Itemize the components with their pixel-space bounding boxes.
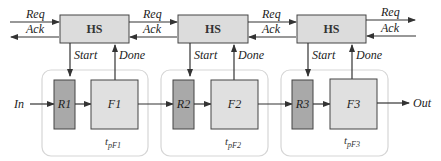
function-label: F2: [227, 97, 241, 111]
start-label: Start: [194, 48, 218, 62]
delay-label: tpF1: [105, 135, 121, 150]
ack-label: Ack: [380, 21, 400, 35]
register-label: R3: [295, 97, 309, 111]
function-label: F1: [107, 97, 121, 111]
start-label: Start: [312, 48, 336, 62]
register-label: R2: [176, 97, 190, 111]
ack-label: Ack: [261, 22, 281, 36]
output-label: Out: [413, 96, 432, 110]
input-label: In: [13, 97, 24, 111]
handshake-block-1: HS: [60, 15, 129, 43]
done-label: Done: [355, 48, 383, 62]
req-ack-2: Req Ack: [248, 7, 296, 37]
req-label: Req: [142, 7, 162, 21]
req-label: Req: [380, 5, 400, 19]
pipeline-diagram: HS HS HS Req Ack Req Ack Req Ack Req Ack…: [0, 0, 441, 161]
control-1: Start Done: [70, 43, 146, 80]
handshake-block-3: HS: [297, 15, 366, 43]
req-label: Req: [261, 7, 281, 21]
ack-label: Ack: [142, 22, 162, 36]
handshake-block-2: HS: [178, 15, 248, 43]
done-label: Done: [237, 48, 265, 62]
req-ack-1: Req Ack: [129, 7, 177, 37]
hs-label: HS: [86, 22, 102, 36]
ack-label: Ack: [25, 22, 45, 36]
delay-label: tpF2: [225, 135, 241, 150]
function-label: F3: [346, 97, 360, 111]
req-ack-3: Req Ack: [366, 5, 416, 36]
register-label: R1: [57, 97, 71, 111]
start-label: Start: [74, 48, 98, 62]
hs-label: HS: [323, 22, 339, 36]
req-label: Req: [25, 7, 45, 21]
hs-label: HS: [205, 22, 221, 36]
delay-label: tpF3: [344, 134, 360, 149]
req-ack-0: Req Ack: [10, 7, 59, 37]
control-3: Start Done: [308, 43, 383, 80]
done-label: Done: [118, 48, 146, 62]
control-2: Start Done: [190, 43, 265, 80]
